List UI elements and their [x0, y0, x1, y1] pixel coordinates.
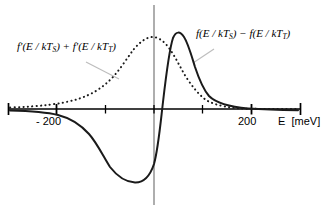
annotation-right-close: ) [287, 27, 291, 39]
annotation-fermi-difference: f(E / kTS) − f(E / kTT) [196, 28, 290, 41]
annotation-left-e1: E [26, 40, 33, 52]
figure-canvas: f'(E / kTS) + f'(E / kTT) f(E / kTS) − f… [0, 0, 328, 216]
annotation-left-e2: E [82, 40, 89, 52]
x-axis-unit: [meV] [291, 115, 320, 127]
x-axis-title: E [meV] [278, 116, 320, 127]
annotation-right-mid: ) − [233, 27, 250, 39]
annotation-derivative-sum: f'(E / kTS) + f'(E / kTT) [17, 41, 116, 54]
annotation-left-close: ) [112, 40, 116, 52]
x-axis-symbol: E [278, 115, 285, 127]
annotation-left-slash2: / [89, 40, 98, 52]
annotation-right-e2: E [256, 27, 263, 39]
annotation-left-mid: ) + [56, 40, 73, 52]
leader-line-right [193, 49, 214, 63]
leader-line-left [86, 62, 119, 79]
axis-tick-label-minus200: - 200 [36, 116, 61, 127]
axis-tick-label-plus200: 200 [238, 116, 256, 127]
annotation-right-slash1: / [209, 27, 218, 39]
